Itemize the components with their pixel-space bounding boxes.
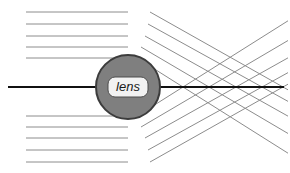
diverging-ray-above-2: [236, 87, 288, 116]
optics-diagram-canvas: lens: [0, 0, 290, 173]
converging-ray-above-1: [148, 24, 262, 87]
converging-ray-below-1: [148, 87, 262, 150]
lens-label: lens: [116, 79, 140, 94]
diverging-ray-below-4: [183, 21, 288, 87]
lens-ray-diagram: lens: [0, 0, 290, 173]
diverging-ray-below-2: [236, 58, 288, 87]
diverging-ray-above-4: [183, 87, 288, 153]
diverging-ray-below-1: [262, 73, 288, 87]
diverging-ray-above-1: [262, 87, 288, 101]
